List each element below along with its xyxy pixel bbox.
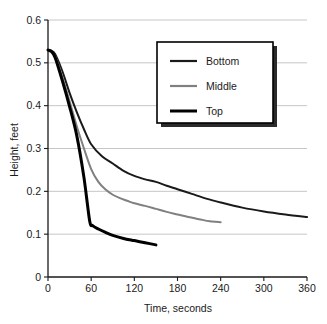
x-tick-label: 120 xyxy=(126,282,144,294)
x-tick-label: 0 xyxy=(45,282,51,294)
y-tick-label: 0.1 xyxy=(26,228,41,240)
x-tick-label: 180 xyxy=(169,282,187,294)
legend: Bottom Middle Top xyxy=(157,42,277,127)
legend-label-bottom: Bottom xyxy=(206,55,240,67)
y-axis-title: Height, feet xyxy=(8,123,20,177)
y-tick-label: 0.6 xyxy=(26,14,41,26)
chart-container: 00.10.20.30.40.50.6 060120180240300360 T… xyxy=(0,0,327,324)
x-tick-label: 60 xyxy=(85,282,97,294)
y-tick-label: 0.3 xyxy=(26,142,41,154)
x-tick-label: 360 xyxy=(298,282,316,294)
x-axis-title: Time, seconds xyxy=(144,302,212,314)
y-tick-label: 0 xyxy=(35,271,41,283)
legend-label-top: Top xyxy=(206,105,223,117)
y-tick-label: 0.4 xyxy=(26,99,41,111)
line-chart: 00.10.20.30.40.50.6 060120180240300360 T… xyxy=(0,0,327,324)
x-tick-label: 240 xyxy=(212,282,230,294)
x-tick-label: 300 xyxy=(255,282,273,294)
y-tick-label: 0.5 xyxy=(26,56,41,68)
legend-label-middle: Middle xyxy=(206,80,237,92)
y-tick-label: 0.2 xyxy=(26,185,41,197)
